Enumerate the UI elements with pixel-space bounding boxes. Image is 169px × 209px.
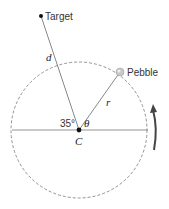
theta-label: θ xyxy=(84,117,90,129)
target-label: Target xyxy=(45,11,73,22)
target-point xyxy=(39,14,43,18)
pebble-label: Pebble xyxy=(127,67,159,78)
distance-label: d xyxy=(46,51,52,63)
arrowhead-icon xyxy=(150,104,157,113)
center-point xyxy=(77,128,82,133)
fixed-angle-label: 35° xyxy=(60,118,75,129)
distance-line xyxy=(41,16,79,130)
rotation-arrow-icon xyxy=(153,110,156,150)
pebble-target-diagram: Target Pebble d r 35° θ C xyxy=(0,0,169,209)
radius-label: r xyxy=(106,96,111,108)
center-label: C xyxy=(75,135,83,147)
